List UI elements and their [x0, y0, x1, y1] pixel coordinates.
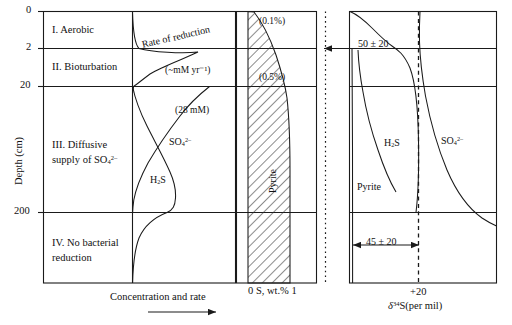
y-axis-ticks [38, 12, 44, 213]
right-panel-x-axis-title: δ34S(per mil) [388, 301, 442, 312]
left-panel-x-axis-title: Concentration and rate [110, 292, 206, 303]
curve-label-sulfate-isotope: SO42– [441, 136, 463, 146]
so4-label-sup: 2– [185, 136, 191, 147]
so4-iso-pre: SO [441, 135, 454, 146]
annotation-0-1-percent: (0.1%) [259, 17, 285, 27]
zone3-sup: 2– [111, 154, 118, 165]
curve-pyrite-isotope [352, 49, 353, 284]
zone3-text-pre: supply of SO [52, 154, 107, 165]
figure-root: Depth (cm) 0 2 20 200 I. Aerobic II. Bio… [0, 0, 512, 325]
y-tick-label-20: 20 [20, 80, 31, 91]
s-axis-unit: S, wt.% [256, 285, 289, 296]
curve-sulfate-isotope [419, 12, 496, 227]
pyrite-region-label: Pyrite [268, 169, 278, 193]
curve-label-sulfate: SO42– [169, 137, 191, 147]
so4-label-pre: SO [169, 136, 182, 147]
s-axis-zero: 0 [248, 285, 253, 296]
s-axis-one: 1 [291, 285, 296, 296]
curve-rate-of-reduction [133, 12, 199, 93]
delta-title-post: S(per mil) [399, 300, 442, 311]
curve-label-h2s: H2S [150, 175, 166, 185]
annotation-0-5-percent: (0.5%) [259, 73, 285, 83]
annotation-45-plusminus-20: 45 ± 20 [366, 237, 397, 247]
curve-label-sulfate-value: (28 mM) [175, 106, 209, 116]
curve-label-rate-unit: (~mM yr⁻¹) [165, 66, 210, 76]
annotation-arrows [324, 49, 419, 246]
curve-label-h2s-isotope: H2S [384, 138, 400, 148]
y-tick-label-200: 200 [14, 206, 30, 217]
pyrite-shaded-area [248, 12, 290, 284]
curve-label-pyrite-isotope: Pyrite [357, 182, 381, 192]
curve-h2s-isotope-lower [358, 50, 396, 192]
zone-label-diffusive-line1: III. Diffusive [52, 140, 107, 151]
zone-label-aerobic: I. Aerobic [52, 25, 94, 36]
h2s-iso-post: S [394, 137, 400, 148]
zone-label-diffusive-line2: supply of SO42– [52, 155, 117, 166]
y-tick-label-0: 0 [26, 5, 31, 16]
middle-panel-x-axis-title: 0 S, wt.% 1 [248, 286, 297, 297]
y-axis-title: Depth (cm) [14, 137, 25, 185]
middle-panel-pyrite-region [248, 12, 290, 284]
h2s-label-post: S [160, 174, 166, 185]
y-tick-label-2: 2 [26, 42, 31, 53]
zone-label-bioturbation: II. Bioturbation [52, 62, 117, 73]
zone-label-nobacterial-line2: reduction [52, 253, 92, 264]
annotation-50-plusminus-20: 50 ± 20 [358, 39, 389, 49]
right-panel-x-tick-plus20: +20 [410, 287, 426, 298]
so4-iso-sup: 2– [457, 135, 463, 146]
zone-label-nobacterial-line1: IV. No bacterial [52, 238, 119, 249]
